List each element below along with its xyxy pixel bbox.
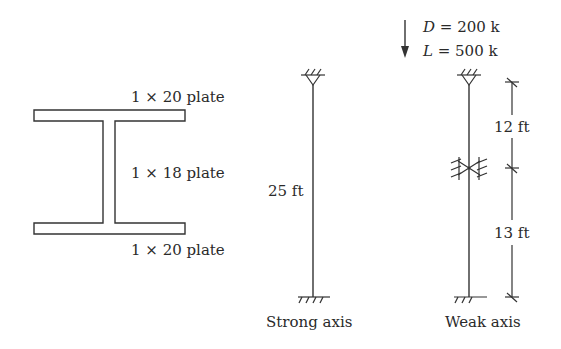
- load-annotation: D = 200 k L = 500 k: [401, 18, 501, 60]
- dimension-line: [505, 78, 519, 302]
- weak-axis-column: 12 ft 13 ft Weak axis: [445, 69, 529, 331]
- top-flange-label: 1 × 20 plate: [131, 88, 225, 106]
- web-label: 1 × 18 plate: [131, 164, 225, 182]
- fixed-support-icon: [298, 297, 330, 303]
- weak-axis-caption: Weak axis: [445, 313, 521, 331]
- strong-axis-caption: Strong axis: [266, 313, 352, 331]
- strong-axis-column: 25 ft Strong axis: [266, 69, 352, 331]
- down-arrow-icon: [401, 20, 409, 58]
- live-load-label: L = 500 k: [422, 42, 498, 60]
- strong-length-label: 25 ft: [268, 182, 303, 200]
- diagram-canvas: 1 × 20 plate 1 × 18 plate 1 × 20 plate 2…: [0, 0, 561, 349]
- lower-length-label: 13 ft: [494, 224, 529, 242]
- upper-length-label: 12 ft: [494, 118, 529, 136]
- dead-load-label: D = 200 k: [422, 18, 501, 36]
- pin-support-icon: [457, 69, 481, 85]
- bottom-flange-label: 1 × 20 plate: [131, 241, 225, 259]
- fixed-support-icon: [454, 297, 487, 303]
- pin-support-icon: [301, 69, 325, 85]
- i-section: 1 × 20 plate 1 × 18 plate 1 × 20 plate: [34, 88, 225, 259]
